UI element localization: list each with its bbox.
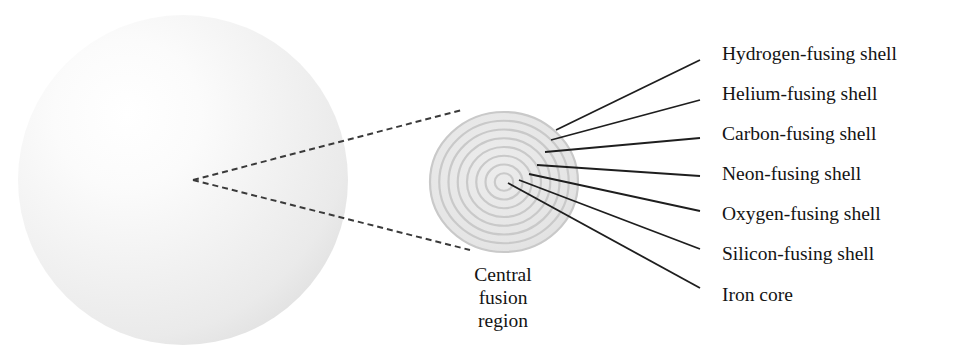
label-carbon-fusing-shell: Carbon-fusing shell	[722, 123, 877, 144]
caption-line-3: region	[478, 310, 528, 331]
caption-line-2: fusion	[479, 287, 528, 308]
stellar-structure-diagram: Hydrogen-fusing shellHelium-fusing shell…	[0, 0, 965, 357]
label-helium-fusing-shell: Helium-fusing shell	[722, 83, 878, 104]
leader-line-helium-fusing-shell	[551, 100, 700, 140]
label-neon-fusing-shell: Neon-fusing shell	[722, 163, 862, 184]
central-fusion-region-caption: Centralfusionregion	[474, 264, 532, 331]
star-sphere	[18, 15, 348, 345]
shell-labels: Hydrogen-fusing shellHelium-fusing shell…	[722, 43, 898, 305]
central-fusion-region	[430, 112, 578, 252]
label-iron-core: Iron core	[722, 284, 793, 305]
caption-line-1: Central	[474, 264, 532, 285]
label-oxygen-fusing-shell: Oxygen-fusing shell	[722, 203, 881, 224]
label-silicon-fusing-shell: Silicon-fusing shell	[722, 243, 875, 264]
star-sphere-group	[18, 15, 348, 345]
label-hydrogen-fusing-shell: Hydrogen-fusing shell	[722, 43, 898, 64]
